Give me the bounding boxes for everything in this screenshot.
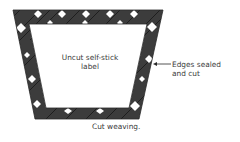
center-label-line-1: Uncut self-stick: [50, 53, 130, 62]
edge-annotation-line-2: and cut: [172, 69, 221, 78]
caption: Cut weaving.: [92, 122, 140, 131]
arrow-icon: [153, 62, 171, 66]
cut-weaving-diagram: Uncut self-stick label Edges sealed and …: [0, 0, 240, 142]
edge-annotation-line-1: Edges sealed: [172, 60, 221, 69]
center-label: Uncut self-stick label: [50, 53, 130, 71]
edge-annotation: Edges sealed and cut: [172, 60, 221, 78]
center-label-line-2: label: [50, 62, 130, 71]
